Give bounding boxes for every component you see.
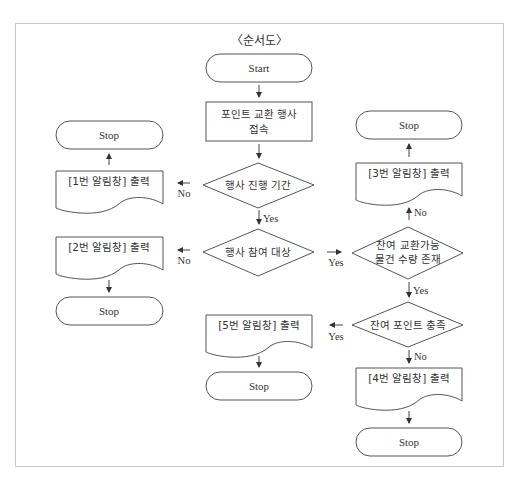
points-yes-label: Yes: [328, 331, 343, 342]
start-terminal: Start: [206, 54, 312, 82]
stop3-terminal: Stop: [356, 111, 462, 139]
stop4-terminal: Stop: [356, 428, 462, 456]
stock-no-label: No: [414, 207, 427, 218]
alert1-document: [1번 알림창] 출력: [56, 171, 163, 213]
eligible-decision: 행사 참여 대상: [203, 229, 314, 276]
stock-yes-label: Yes: [413, 285, 428, 296]
stock-label-line1: 잔여 교환가능: [376, 239, 439, 251]
alert5-document: [5번 알림창] 출력: [206, 315, 312, 357]
points-label: 잔여 포인트 충족: [370, 319, 447, 331]
access-label-line1: 포인트 교환 행사: [221, 108, 298, 120]
alert5-label: [5번 알림창] 출력: [218, 319, 300, 331]
period-yes-label: Yes: [263, 213, 278, 224]
alert2-document: [2번 알림창] 출력: [56, 237, 163, 279]
stop4-label: Stop: [399, 436, 420, 448]
period-decision: 행사 진행 기간: [203, 163, 314, 208]
alert4-label: [4번 알림창] 출력: [368, 372, 450, 384]
stop5-terminal: Stop: [206, 372, 312, 400]
flowchart-canvas: 〈순서도〉 Start 포인트 교환 행사 접속 행사 진행 기간 행사 참여 …: [0, 0, 524, 481]
stop1-terminal: Stop: [56, 121, 163, 149]
stop3-label: Stop: [399, 119, 420, 131]
alert4-document: [4번 알림창] 출력: [356, 368, 462, 410]
start-label: Start: [249, 62, 270, 74]
alert3-label: [3번 알림창] 출력: [368, 167, 450, 179]
stop5-label: Stop: [249, 380, 270, 392]
access-process-box: 포인트 교환 행사 접속: [206, 102, 312, 141]
stop2-terminal: Stop: [56, 297, 163, 325]
eligible-no-label: No: [178, 255, 191, 266]
stock-decision: 잔여 교환가능 물건 수량 존재: [352, 227, 463, 279]
eligible-yes-label: Yes: [328, 257, 343, 268]
access-label-line2: 접속: [249, 123, 269, 135]
alert2-label: [2번 알림창] 출력: [68, 241, 150, 253]
period-label: 행사 진행 기간: [225, 179, 292, 191]
alert1-label: [1번 알림창] 출력: [68, 175, 150, 187]
alert3-document: [3번 알림창] 출력: [356, 163, 462, 205]
stop1-label: Stop: [99, 129, 120, 141]
period-no-label: No: [178, 188, 191, 199]
stop2-label: Stop: [99, 305, 120, 317]
flowchart-title: 〈순서도〉: [231, 34, 288, 48]
stock-label-line2: 물건 수량 존재: [375, 253, 442, 265]
points-decision: 잔여 포인트 충족: [352, 302, 463, 347]
points-no-label: No: [414, 351, 427, 362]
eligible-label: 행사 참여 대상: [225, 246, 292, 258]
